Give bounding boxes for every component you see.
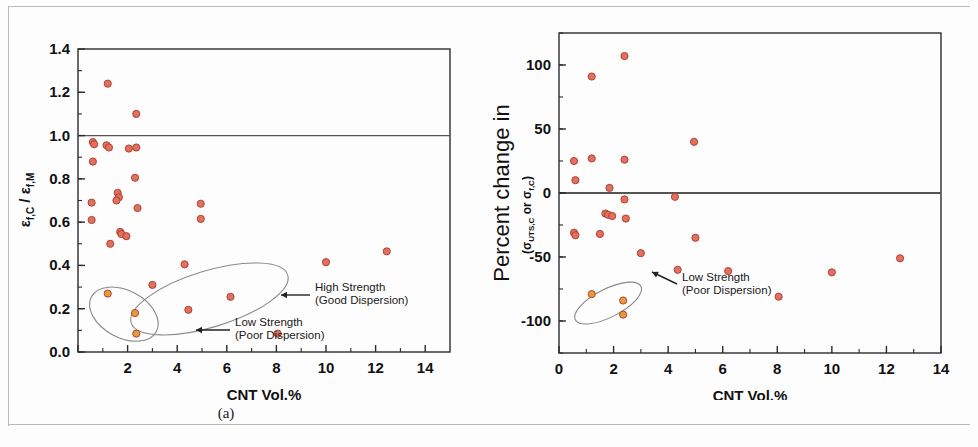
data-point [620, 311, 627, 318]
data-point [383, 248, 390, 255]
y-axis-title-text: εf,C / εf,M [16, 173, 36, 228]
data-point [606, 184, 613, 191]
y-tick-label: -100 [521, 312, 551, 329]
y-axis-subtitle-text: (σUTS,C or σf,C) [520, 176, 536, 254]
panel-b: 02468101214-100-50050100Low Strength(Poo… [489, 0, 978, 447]
data-point [588, 73, 595, 80]
y-tick-label: 0 [543, 184, 551, 201]
y-tick-label: 100 [526, 56, 551, 73]
y-tick-label: 1.4 [49, 40, 71, 57]
data-point [149, 281, 156, 288]
data-point [88, 199, 95, 206]
panel-a-letter: (a) [196, 405, 256, 422]
data-point [609, 212, 616, 219]
series-1 [588, 291, 627, 319]
data-point [692, 234, 699, 241]
x-axis-title: CNT Vol.% [227, 386, 302, 400]
data-point [133, 330, 140, 337]
y-axis-subtitle: (σUTS,C or σf,C) [520, 176, 536, 254]
data-point [671, 193, 678, 200]
data-point [88, 216, 95, 223]
annotation-line2: (Poor Dispersion) [235, 329, 325, 341]
x-tick-label: 0 [555, 360, 563, 377]
data-point [570, 157, 577, 164]
x-tick-label: 6 [719, 360, 727, 377]
y-axis-title: εf,C / εf,M [16, 173, 36, 228]
data-point [185, 306, 192, 313]
data-point [89, 158, 96, 165]
data-point [588, 291, 595, 298]
data-point [91, 141, 98, 148]
data-point [181, 261, 188, 268]
annotation-arrowhead [196, 327, 202, 333]
data-point [621, 196, 628, 203]
data-point [322, 259, 329, 266]
data-point [107, 240, 114, 247]
x-tick-label: 8 [272, 359, 280, 376]
highlight-ellipses [569, 274, 647, 333]
y-tick-label: 0.8 [49, 170, 70, 187]
data-point [133, 144, 140, 151]
plot-frame [78, 49, 450, 352]
data-point [690, 138, 697, 145]
x-tick-label: 6 [223, 359, 231, 376]
annotation-line1: Low Strength [682, 271, 750, 283]
data-point [572, 177, 579, 184]
data-point [197, 200, 204, 207]
x-axis-ticks: 02468101214 [555, 346, 950, 377]
x-tick-label: 14 [933, 360, 950, 377]
data-point [622, 215, 629, 222]
data-point [131, 174, 138, 181]
data-point [131, 309, 138, 316]
y-tick-label: 1.2 [49, 83, 70, 100]
data-point [637, 250, 644, 257]
x-tick-label: 14 [417, 359, 434, 376]
x-tick-label: 10 [824, 360, 841, 377]
x-axis-title: CNT Vol.% [713, 387, 788, 400]
y-axis-ticks: 0.00.20.40.60.81.01.21.4 [49, 40, 85, 360]
data-point [674, 266, 681, 273]
y-tick-label: 0.4 [49, 256, 71, 273]
x-tick-label: 8 [773, 360, 781, 377]
scatter-plot-a: 24681012140.00.20.40.60.81.01.21.4Low St… [0, 0, 489, 400]
annotation-arrowhead [281, 292, 287, 298]
data-point [105, 144, 112, 151]
annotations-group: Low Strength(Poor Dispersion) [652, 271, 772, 296]
data-point [134, 204, 141, 211]
data-point [621, 52, 628, 59]
x-tick-label: 10 [318, 359, 335, 376]
data-point [104, 80, 111, 87]
x-tick-label: 12 [367, 359, 384, 376]
data-point [123, 233, 130, 240]
annotation-line2: (Good Dispersion) [315, 294, 408, 306]
data-point [133, 110, 140, 117]
series-0 [570, 52, 903, 300]
annotation-line1: Low Strength [235, 316, 303, 328]
axes-group [78, 49, 450, 352]
data-point [125, 145, 132, 152]
data-point [620, 297, 627, 304]
data-point [572, 232, 579, 239]
y-tick-label: 50 [534, 120, 551, 137]
series-1 [104, 290, 140, 337]
x-tick-label: 2 [123, 359, 131, 376]
annotations-group: Low Strength(Poor Dispersion)High Streng… [196, 281, 408, 341]
figure-container: 24681012140.00.20.40.60.81.01.21.4Low St… [0, 0, 978, 447]
x-axis-ticks: 2468101214 [78, 345, 434, 376]
annotation-line1: High Strength [315, 281, 385, 293]
annotation-line2: (Poor Dispersion) [682, 284, 772, 296]
data-point [104, 290, 111, 297]
y-axis-title: Percent change in [489, 104, 514, 281]
y-tick-label: 0.6 [49, 213, 70, 230]
data-point [896, 255, 903, 262]
data-point [621, 156, 628, 163]
data-point [113, 197, 120, 204]
x-tick-label: 4 [664, 360, 673, 377]
panel-a: 24681012140.00.20.40.60.81.01.21.4Low St… [0, 0, 489, 447]
data-point [197, 215, 204, 222]
data-point [227, 293, 234, 300]
x-tick-label: 2 [609, 360, 617, 377]
y-axis-title-text: Percent change in [489, 104, 514, 281]
data-point [775, 293, 782, 300]
scatter-plot-b: 02468101214-100-50050100Low Strength(Poo… [489, 0, 978, 400]
